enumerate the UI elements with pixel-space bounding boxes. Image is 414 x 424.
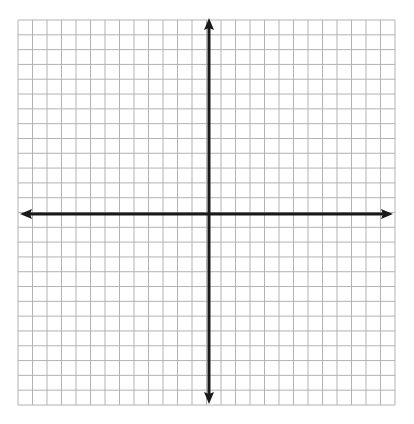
coordinate-plane — [0, 0, 414, 424]
